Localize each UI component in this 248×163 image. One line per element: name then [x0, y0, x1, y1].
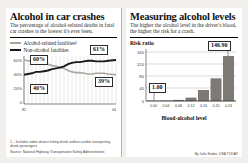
y-tick-120: 120 [137, 62, 145, 67]
callout-base-value: 1.00 [149, 83, 166, 93]
callout-end-black: 61% [90, 45, 108, 55]
left-panel-source: Source: National Highway Transportation … [10, 150, 118, 154]
legend-label-non-alcohol: Non-alcohol fatalities [24, 47, 69, 53]
y-tick-0: 0 [142, 99, 145, 104]
right-bar-chart: 160 120 80 40 0 [130, 47, 238, 115]
callout-start-black: 40% [30, 84, 48, 94]
infographic-page: Alcohol in car crashes The percentage of… [0, 0, 248, 163]
left-line-chart: 60% 40% 20% 0 82 04 60% 61% [10, 54, 118, 116]
bar-0.12 [186, 97, 197, 100]
callout-start-gray: 60% [30, 55, 48, 65]
right-panel-title: Measuring alcohol levels [130, 11, 238, 22]
y-tick-60: 60% [14, 58, 23, 63]
legend-label-alcohol-related: Alcohol-related fatalities¹ [24, 40, 77, 46]
right-panel-inner: Measuring alcohol levels The higher the … [126, 8, 242, 157]
left-panel-divider [10, 37, 117, 38]
bar-0.24 [223, 56, 234, 101]
y-tick-80: 80 [139, 74, 144, 79]
bar-plot-background [146, 49, 236, 101]
x-tick-0.04: 0.04 [163, 104, 170, 108]
right-panel: Measuring alcohol levels The higher the … [126, 8, 242, 157]
blood-alcohol-axis-title: Blood-alcohol level [130, 115, 238, 121]
y-tick-40: 40% [14, 72, 23, 77]
left-panel-inner: Alcohol in car crashes The percentage of… [6, 8, 121, 157]
left-panel-subtitle: The percentage of alcohol-related deaths… [10, 23, 117, 35]
left-panel-footnote: 1 – Includes sober drivers hitting drunk… [10, 140, 118, 148]
y-tick-40: 40 [139, 86, 144, 91]
left-panel: Alcohol in car crashes The percentage of… [6, 8, 122, 157]
y-tick-160: 160 [137, 50, 145, 55]
byline-credit: By Julie Snider, USA TODAY [195, 152, 238, 156]
x-tick-0.24: 0.24 [225, 104, 232, 108]
x-tick-0.16: 0.16 [200, 104, 207, 108]
x-tick-82: 82 [22, 108, 26, 112]
x-tick-0.00: 0.00 [150, 104, 157, 108]
bar-0.20 [211, 78, 222, 101]
x-tick-0.20: 0.20 [213, 104, 220, 108]
x-tick-04: 04 [112, 108, 116, 112]
x-tick-0.08: 0.08 [175, 104, 182, 108]
right-panel-divider [130, 37, 238, 38]
left-panel-title: Alcohol in car crashes [10, 11, 117, 22]
callout-end-gray: 39% [95, 77, 113, 87]
right-chart-svg: 160 120 80 40 0 [130, 47, 238, 115]
line-swatch-gray-icon [10, 42, 21, 44]
y-tick-20: 20% [14, 86, 23, 91]
line-swatch-black-icon [10, 49, 21, 52]
right-panel-subtitle: The higher the alcohol level in the driv… [130, 23, 238, 35]
x-tick-0.12: 0.12 [188, 104, 195, 108]
callout-peak-value: 146.90 [208, 41, 231, 51]
bar-0.16 [198, 90, 209, 101]
y-tick-0: 0 [20, 100, 23, 105]
